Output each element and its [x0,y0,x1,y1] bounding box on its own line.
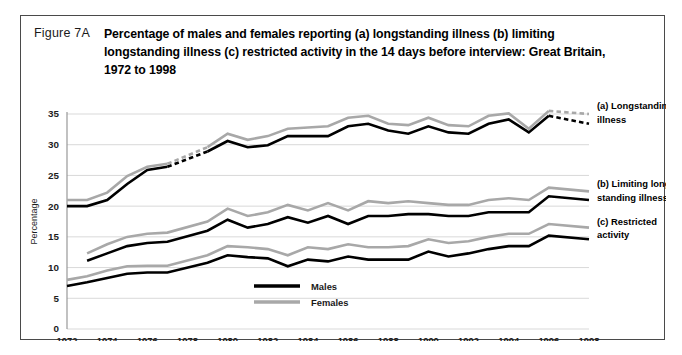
series-line-a-females [167,147,207,164]
y-tick-label: 15 [48,231,59,242]
x-tick-label: 1984 [297,335,319,341]
x-tick-label: 1992 [458,335,479,341]
y-axis-title: Percentage [29,198,39,244]
series-annotation-b: standing illness [597,192,666,203]
y-axis-title-text: Percentage [29,198,39,244]
figure-card: Figure 7A Percentage of males and female… [20,15,665,340]
x-tick-label: 1986 [338,335,359,341]
x-tick-label: 1996 [538,335,559,341]
x-tick-label: 1974 [97,335,119,341]
data-series-lines [67,111,589,286]
line-chart: 05101520253035 1972197419761978198019821… [21,88,666,341]
series-annotation-b: (b) Limiting long [597,178,666,189]
y-tick-label: 5 [54,293,60,304]
y-tick-label: 20 [48,201,59,212]
series-line-a-males [167,152,207,167]
chart-plot-area: 05101520253035 1972197419761978198019821… [21,88,666,341]
x-tick-label: 1980 [217,335,238,341]
y-tick-label: 25 [48,170,59,181]
chart-legend: MalesFemales [254,281,349,308]
x-axis-ticks: 1972197419761978198019821984198619881990… [57,335,600,341]
series-annotations: (a) Longstandingillness(b) Limiting long… [597,100,666,240]
x-tick-label: 1998 [579,335,600,341]
figure-number: Figure 7A [34,26,90,40]
series-annotation-a: (a) Longstanding [597,100,666,111]
series-annotation-a: illness [597,114,626,125]
x-tick-label: 1990 [418,335,439,341]
series-annotation-c: (c) Restricted [597,216,657,227]
x-tick-label: 1988 [378,335,399,341]
page-title: Percentage of males and females reportin… [104,25,624,80]
figure-header: Figure 7A Percentage of males and female… [21,16,666,88]
x-tick-label: 1972 [57,335,78,341]
y-tick-label: 10 [48,262,59,273]
legend-males-label: Males [311,281,337,292]
y-tick-label: 0 [54,323,60,334]
y-axis-ticks: 05101520253035 [48,108,59,334]
legend-females-label: Females [311,297,349,308]
series-annotation-c: activity [597,229,630,240]
series-line-a-females [208,111,549,147]
y-tick-label: 35 [48,108,59,119]
x-tick-label: 1982 [257,335,278,341]
x-tick-label: 1994 [498,335,520,341]
x-tick-label: 1978 [177,335,198,341]
series-line-a-males [549,116,589,124]
x-tick-label: 1976 [137,335,158,341]
y-tick-label: 30 [48,139,59,150]
